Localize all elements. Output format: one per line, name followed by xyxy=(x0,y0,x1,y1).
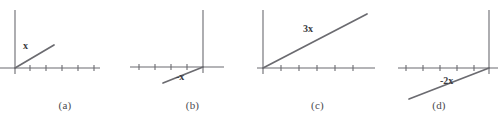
vector-label-a: x xyxy=(23,41,28,51)
caption-a: (a) xyxy=(0,98,130,112)
vector-label-d: -2x xyxy=(440,76,453,86)
vector-label-c: 3x xyxy=(303,24,313,34)
vector-scalar-multiple-figure: x (a) -x (b) xyxy=(0,0,498,120)
vector-arrow-a xyxy=(15,45,54,68)
vector-label-b: -x xyxy=(176,72,184,82)
panel-c: 3x (c) xyxy=(255,0,380,120)
caption-b: (b) xyxy=(130,98,255,112)
caption-d: (d) xyxy=(380,98,498,112)
vector-arrow-c xyxy=(263,14,367,68)
panel-a: x (a) xyxy=(0,0,130,120)
panel-c-axes-diagram xyxy=(255,0,380,98)
panel-b-axes-diagram xyxy=(130,0,255,98)
panel-b: -x (b) xyxy=(130,0,255,120)
panel-a-axes-diagram xyxy=(0,0,130,98)
caption-c: (c) xyxy=(255,98,380,112)
panel-d-axes-diagram xyxy=(380,0,498,110)
panel-d: -2x (d) xyxy=(380,0,498,120)
